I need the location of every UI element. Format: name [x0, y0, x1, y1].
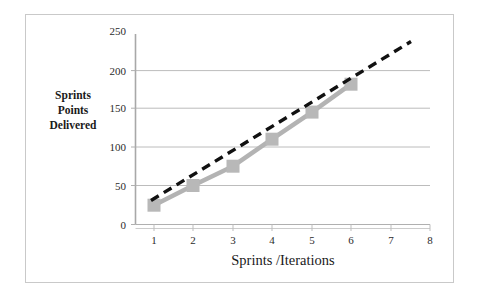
data-point-5: [306, 106, 319, 119]
x-tick-label-7: 7: [388, 234, 394, 246]
y-tick-label-0: 0: [98, 219, 126, 231]
y-axis-title: Sprints Points Delivered: [30, 88, 116, 133]
x-tick-label-2: 2: [190, 234, 196, 246]
y-axis-title-line-1: Sprints: [30, 88, 116, 103]
x-tick-label-8: 8: [427, 234, 433, 246]
data-point-4: [266, 133, 279, 146]
x-tick-label-1: 1: [151, 234, 157, 246]
y-axis-title-line-2: Points: [30, 103, 116, 118]
y-axis-title-line-3: Delivered: [30, 118, 116, 133]
x-tick-marks: [154, 225, 430, 232]
data-point-2: [187, 179, 200, 192]
y-tick-label-50: 50: [98, 180, 126, 192]
y-tick-label-250: 250: [98, 25, 126, 37]
y-tick-label-100: 100: [98, 141, 126, 153]
x-tick-label-3: 3: [230, 234, 236, 246]
y-tick-label-200: 200: [98, 65, 126, 77]
x-tick-label-4: 4: [269, 234, 275, 246]
chart-figure: 250 200 150 100 50 0 1 2 3 4 5 6 7 8 Spr…: [0, 0, 479, 297]
x-tick-label-5: 5: [309, 234, 315, 246]
x-tick-label-6: 6: [348, 234, 354, 246]
gridlines: [136, 71, 431, 186]
trend-line: [151, 42, 411, 201]
x-axis-title: Sprints /Iterations: [135, 252, 431, 269]
data-point-3: [227, 160, 240, 173]
data-series-line: [154, 84, 351, 205]
